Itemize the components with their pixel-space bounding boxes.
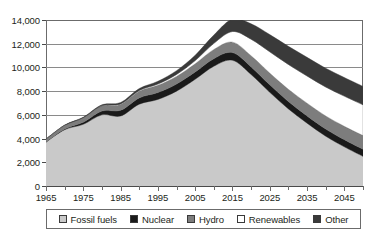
legend-swatch-icon [59, 215, 67, 223]
legend-swatch-icon [187, 215, 195, 223]
x-tick-label: 2025 [259, 192, 280, 203]
chart-legend: Fossil fuelsNuclearHydroRenewablesOther [46, 209, 361, 229]
legend-item-renewables[interactable]: Renewables [237, 214, 300, 225]
x-tick-mark-major [344, 186, 345, 191]
x-tick-mark-major [158, 186, 159, 191]
x-tick-mark-major [232, 186, 233, 191]
x-tick-label: 1985 [110, 192, 131, 203]
x-tick-label: 1975 [73, 192, 94, 203]
y-tick-label: 6,000 [17, 109, 40, 120]
legend-item-hydro[interactable]: Hydro [187, 214, 224, 225]
legend-item-other[interactable]: Other [313, 214, 348, 225]
legend-label: Nuclear [142, 214, 174, 225]
chart-container: 02,0004,0006,0008,00010,00012,00014,000 … [0, 0, 382, 247]
x-tick-mark-major [307, 186, 308, 191]
x-tick-label: 2045 [334, 192, 355, 203]
y-tick-label: 2,000 [17, 157, 40, 168]
x-tick-mark-major [121, 186, 122, 191]
x-tick-mark-major [270, 186, 271, 191]
x-axis-line [46, 186, 363, 187]
legend-label: Fossil fuels [71, 214, 117, 225]
y-tick-label: 12,000 [12, 38, 40, 49]
x-tick-label: 2005 [185, 192, 206, 203]
y-tick-label: 10,000 [12, 62, 40, 73]
x-tick-label: 1965 [36, 192, 57, 203]
x-tick-mark-minor [65, 186, 66, 190]
x-tick-mark-minor [288, 186, 289, 190]
x-tick-mark-minor [177, 186, 178, 190]
x-tick-mark-major [46, 186, 47, 191]
x-tick-mark-minor [102, 186, 103, 190]
x-tick-mark-minor [214, 186, 215, 190]
legend-swatch-icon [237, 215, 245, 223]
x-tick-label: 2015 [222, 192, 243, 203]
y-tick-label: 0 [35, 181, 40, 192]
y-axis: 02,0004,0006,0008,00010,00012,00014,000 [0, 0, 44, 206]
x-tick-label: 1995 [148, 192, 169, 203]
x-tick-label: 2035 [297, 192, 318, 203]
x-tick-mark-major [83, 186, 84, 191]
x-tick-mark-major [195, 186, 196, 191]
y-tick-label: 14,000 [12, 15, 40, 26]
x-tick-mark-minor [139, 186, 140, 190]
legend-label: Other [325, 214, 348, 225]
x-axis-labels: 196519751985199520052015202520352045 [0, 192, 382, 206]
legend-swatch-icon [313, 215, 321, 223]
legend-item-nuclear[interactable]: Nuclear [130, 214, 174, 225]
x-tick-mark-minor [363, 186, 364, 190]
stacked-area-plot [46, 20, 363, 186]
y-tick-label: 8,000 [17, 86, 40, 97]
plot-area [46, 20, 363, 186]
x-tick-mark-minor [326, 186, 327, 190]
legend-label: Hydro [199, 214, 224, 225]
y-tick-label: 4,000 [17, 133, 40, 144]
legend-label: Renewables [249, 214, 300, 225]
legend-item-fossil-fuels[interactable]: Fossil fuels [59, 214, 117, 225]
x-tick-mark-minor [251, 186, 252, 190]
legend-swatch-icon [130, 215, 138, 223]
